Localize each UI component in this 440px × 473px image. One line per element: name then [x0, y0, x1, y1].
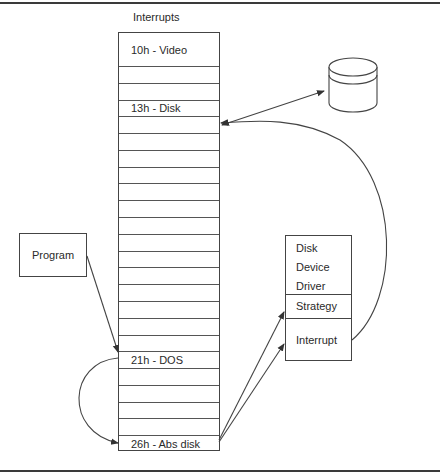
- interrupt-row: [119, 150, 219, 167]
- disk-cylinder-icon: [329, 58, 377, 112]
- disk-device-driver-box: Disk Device Driver Strategy Interrupt: [285, 235, 352, 361]
- interrupt-row: [119, 318, 219, 335]
- interrupt-row-10h: 10h - Video: [119, 33, 219, 66]
- interrupts-title: Interrupts: [133, 11, 179, 23]
- arrow-program-to-dos: [87, 256, 118, 352]
- interrupt-row: [119, 418, 219, 435]
- interrupt-row: [119, 368, 219, 385]
- interrupt-row: [119, 284, 219, 301]
- program-box: Program: [19, 233, 87, 277]
- interrupt-row-26h: 26h - Abs disk: [119, 435, 219, 452]
- top-rule: [0, 2, 440, 4]
- interrupt-row: [119, 133, 219, 150]
- arrow-dos-to-absdisk: [79, 358, 118, 443]
- arrow-absdisk-to-interrupt: [219, 344, 284, 442]
- bottom-rule: [0, 470, 440, 472]
- interrupt-row: [119, 116, 219, 133]
- interrupt-vector-table: 10h - Video13h - Disk21h - DOS26h - Abs …: [118, 32, 220, 451]
- interrupt-row: [119, 183, 219, 200]
- strategy-section: Strategy: [286, 300, 351, 312]
- interrupt-row: [119, 385, 219, 402]
- driver-title-line-2: Device: [286, 261, 351, 273]
- driver-divider: [286, 294, 351, 295]
- interrupt-row: [119, 301, 219, 318]
- interrupt-row: [119, 200, 219, 217]
- interrupt-row: [119, 167, 219, 184]
- interrupt-row: [119, 402, 219, 419]
- interrupt-row: [119, 251, 219, 268]
- driver-title-line-3: Driver: [286, 280, 351, 292]
- program-label: Program: [32, 249, 74, 261]
- driver-title-line-1: Disk: [286, 242, 351, 254]
- interrupt-row: [119, 66, 219, 83]
- arrow-disk-row-to-disk: [222, 91, 324, 125]
- interrupt-row: [119, 267, 219, 284]
- interrupt-row-13h: 13h - Disk: [119, 100, 219, 117]
- interrupt-section: Interrupt: [286, 334, 351, 346]
- interrupt-row-21h: 21h - DOS: [119, 351, 219, 368]
- interrupt-row: [119, 83, 219, 100]
- interrupt-row: [119, 217, 219, 234]
- arrow-absdisk-to-strategy: [219, 312, 284, 440]
- interrupt-row: [119, 335, 219, 352]
- driver-divider: [286, 318, 351, 319]
- interrupt-row: [119, 234, 219, 251]
